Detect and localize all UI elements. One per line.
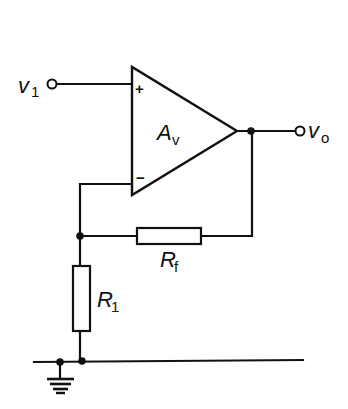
gain-label-main: A (155, 120, 172, 145)
r1-branch: R 1 (73, 266, 119, 331)
plus-sign: + (135, 80, 144, 97)
input-label-sub: 1 (31, 83, 39, 100)
rf-resistor (137, 228, 201, 244)
r1-resistor (73, 266, 90, 331)
op-amp: + − A v (132, 67, 237, 195)
output-label-main: v (308, 118, 321, 143)
r1-label-sub: 1 (111, 298, 119, 315)
ground-line (34, 360, 303, 362)
input-terminal: v 1 (18, 73, 132, 100)
input-terminal-circle (48, 80, 57, 89)
r1-ground-junction-dot (78, 357, 86, 365)
minus-sign: − (136, 169, 145, 186)
gain-label-sub: v (172, 131, 180, 148)
ground-icon (47, 379, 74, 393)
input-label-main: v (18, 73, 31, 98)
output-terminal: v o (237, 118, 329, 146)
output-terminal-circle (296, 127, 305, 136)
ground-rail (34, 357, 303, 378)
op-amp-triangle (132, 67, 237, 195)
circuit-diagram: v 1 + − A v v o R f R 1 (0, 0, 348, 409)
output-label-sub: o (321, 129, 329, 146)
rf-label-sub: f (174, 258, 179, 275)
feedback-junction-dot (76, 232, 84, 240)
